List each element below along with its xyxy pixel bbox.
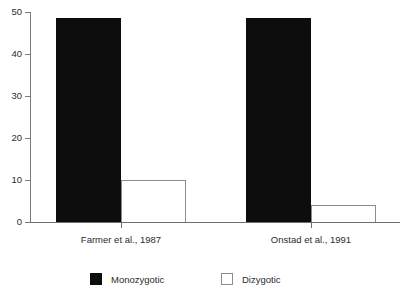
y-tick-label: 0 [17, 215, 22, 228]
legend-label-dizygotic: Dizygotic [242, 273, 281, 286]
y-axis-tick: 10 [0, 180, 30, 181]
y-axis-tick: 50 [0, 12, 30, 13]
x-axis-line [30, 222, 400, 223]
y-axis-tick: 20 [0, 138, 30, 139]
legend-swatch-monozygotic-icon [90, 273, 102, 285]
y-axis-tick: 0 [0, 222, 30, 223]
legend-entry-dizygotic[interactable]: Dizygotic [221, 268, 281, 290]
legend-label-monozygotic: Monozygotic [111, 273, 164, 286]
x-axis-category-label: Onstad et al., 1991 [271, 233, 351, 246]
bar-dizygotic-2 [311, 205, 376, 222]
y-axis-tick: 30 [0, 96, 30, 97]
x-axis-tick [311, 222, 312, 228]
bar-monozygotic-2 [246, 18, 311, 222]
plot-area [30, 12, 400, 222]
y-tick-label: 20 [11, 131, 22, 144]
bar-chart: 01020304050 Farmer et al., 1987Onstad et… [0, 0, 410, 296]
y-tick-label: 10 [11, 173, 22, 186]
y-tick-label: 50 [11, 5, 22, 18]
y-tick-label: 40 [11, 47, 22, 60]
chart-legend: Monozygotic Dizygotic [0, 268, 410, 290]
bar-dizygotic-1 [121, 180, 186, 222]
y-axis-tick: 40 [0, 54, 30, 55]
x-axis-category-label: Farmer et al., 1987 [81, 233, 161, 246]
y-tick-label: 30 [11, 89, 22, 102]
legend-swatch-dizygotic-icon [221, 273, 233, 285]
bar-monozygotic-1 [56, 18, 121, 222]
x-axis-tick [121, 222, 122, 228]
y-tick-mark [25, 222, 30, 223]
legend-entry-monozygotic[interactable]: Monozygotic [90, 268, 164, 290]
